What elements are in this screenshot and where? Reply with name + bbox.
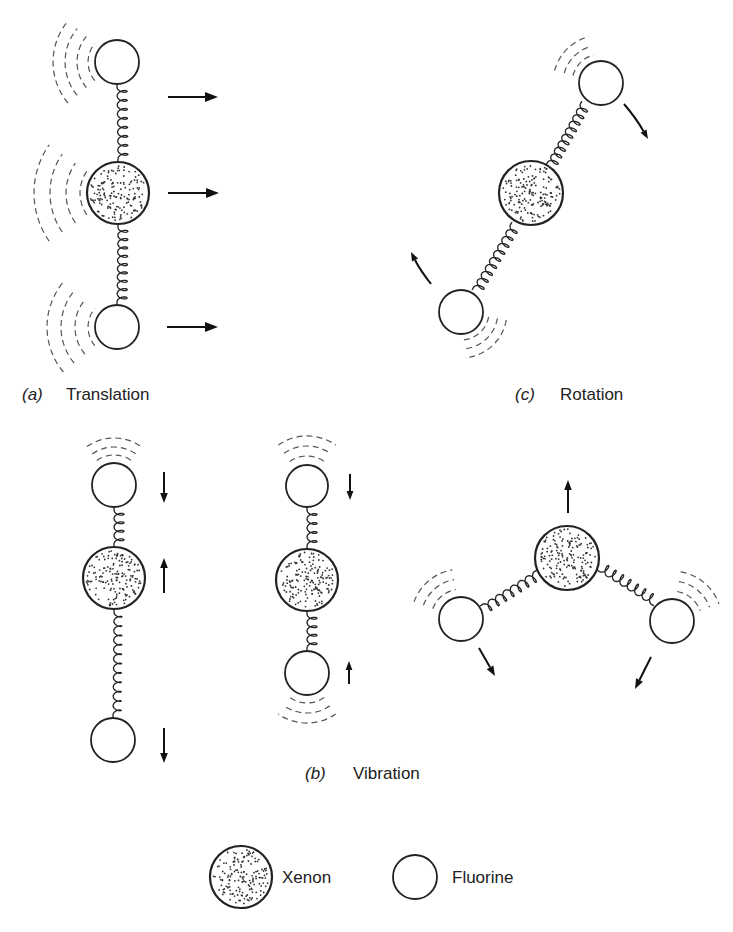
stipple-dot	[99, 200, 101, 202]
motion-arc	[290, 698, 324, 703]
stipple-dot	[262, 882, 264, 884]
stipple-dot	[321, 592, 323, 594]
stipple-dot	[515, 169, 517, 171]
stipple-dot	[114, 591, 116, 593]
stipple-dot	[103, 215, 105, 217]
stipple-dot	[286, 582, 288, 584]
stipple-dot	[116, 555, 118, 557]
arrow-head	[160, 558, 168, 568]
xenon-circle	[276, 549, 338, 611]
stipple-dot	[554, 540, 556, 542]
motion-arrow	[160, 728, 168, 763]
stipple-dot	[95, 587, 97, 589]
stipple-dot	[111, 170, 113, 172]
stipple-dot	[506, 183, 508, 185]
motion-blur-arcs	[87, 438, 141, 460]
stipple-dot	[95, 594, 97, 596]
stipple-dot	[125, 599, 127, 601]
stipple-dot	[525, 181, 527, 183]
motion-arc	[681, 572, 719, 604]
stipple-dot	[573, 561, 575, 563]
stipple-dot	[563, 578, 565, 580]
stipple-dot	[556, 550, 558, 552]
stipple-dot	[98, 559, 100, 561]
stipple-dot	[143, 182, 145, 184]
stipple-dot	[124, 196, 126, 198]
xenon-atom	[87, 162, 149, 224]
stipple-dot	[572, 568, 574, 570]
stipple-dot	[325, 570, 327, 572]
stipple-dot	[135, 581, 137, 583]
stipple-dot	[582, 579, 584, 581]
stipple-dot	[509, 209, 511, 211]
stipple-dot	[542, 558, 544, 560]
stipple-dot	[567, 565, 569, 567]
stipple-dot	[92, 200, 94, 202]
stipple-dot	[122, 555, 124, 557]
stipple-dot	[289, 585, 291, 587]
stipple-dot	[587, 574, 589, 576]
stipple-dot	[532, 217, 534, 219]
stipple-dot	[326, 577, 328, 579]
stipple-dot	[241, 895, 243, 897]
stipple-dot	[121, 194, 123, 196]
stipple-dot	[114, 211, 116, 213]
stipple-dot	[546, 537, 548, 539]
stipple-dot	[114, 554, 116, 556]
stipple-dot	[249, 897, 251, 899]
stipple-dot	[314, 605, 316, 607]
stipple-dot	[594, 556, 596, 558]
stipple-dot	[129, 556, 131, 558]
stipple-dot	[539, 168, 541, 170]
stipple-dot	[247, 899, 249, 901]
stipple-dot	[252, 878, 254, 880]
stipple-dot	[234, 856, 236, 858]
stipple-dot	[123, 169, 125, 171]
motion-arc	[65, 29, 77, 96]
stipple-dot	[321, 574, 323, 576]
stipple-dot	[95, 578, 97, 580]
stipple-dot	[505, 191, 507, 193]
stipple-dot	[578, 544, 580, 546]
stipple-dot	[556, 195, 558, 197]
arrow-shaft	[479, 648, 490, 667]
stipple-dot	[317, 577, 319, 579]
stipple-dot	[316, 604, 318, 606]
stipple-dot	[97, 198, 99, 200]
stipple-dot	[576, 545, 578, 547]
stipple-dot	[312, 582, 314, 584]
stipple-dot	[549, 205, 551, 207]
stipple-dot	[99, 202, 101, 204]
stipple-dot	[537, 202, 539, 204]
stipple-dot	[532, 220, 534, 222]
stipple-dot	[101, 576, 103, 578]
stipple-dot	[128, 565, 130, 567]
stipple-dot	[532, 192, 534, 194]
fluorine-atom	[650, 599, 694, 643]
stipple-dot	[544, 197, 546, 199]
arrow-head	[205, 322, 218, 332]
stipple-dot	[242, 878, 244, 880]
stipple-dot	[121, 209, 123, 211]
stipple-dot	[526, 168, 528, 170]
stipple-dot	[516, 211, 518, 213]
stipple-dot	[102, 572, 104, 574]
stipple-dot	[134, 193, 136, 195]
stipple-dot	[127, 201, 129, 203]
vibration-bend	[414, 480, 719, 689]
stipple-dot	[524, 207, 526, 209]
stipple-dot	[505, 180, 507, 182]
stipple-dot	[98, 211, 100, 213]
stipple-dot	[251, 897, 253, 899]
stipple-dot	[304, 591, 306, 593]
stipple-dot	[113, 588, 115, 590]
stipple-dot	[113, 564, 115, 566]
vibration-asymmetric-stretch	[276, 436, 353, 723]
stipple-dot	[112, 182, 114, 184]
stipple-dot	[230, 868, 232, 870]
xenon-atom	[83, 547, 145, 609]
stipple-dot	[229, 880, 231, 882]
stipple-dot	[311, 553, 313, 555]
stipple-dot	[281, 570, 283, 572]
stipple-dot	[510, 200, 512, 202]
